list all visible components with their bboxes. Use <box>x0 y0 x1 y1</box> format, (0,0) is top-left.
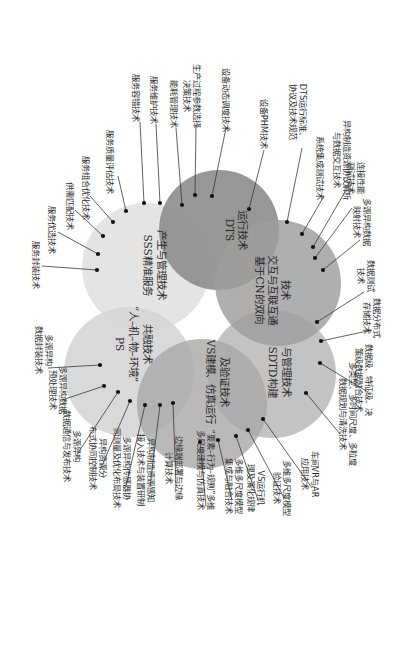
leader-dot <box>304 391 308 395</box>
leader-line <box>287 148 302 222</box>
technology-label-line: 设备动态调度技术 <box>221 68 231 132</box>
technology-label-line: 服务质量评估技术 <box>105 130 115 194</box>
technology-label: 异构制造资源感知接入技术与装置研制 <box>136 434 157 506</box>
leader-dot <box>210 194 214 198</box>
technology-label-line: 计算技术 <box>164 452 174 484</box>
leader-dot <box>111 220 115 224</box>
technology-label-line: 应用技术 <box>300 458 310 490</box>
technology-label: 供需匹配技术 <box>65 182 75 230</box>
technology-label: 数据测试技术 <box>356 260 377 293</box>
circle-title-line: PS <box>114 337 126 351</box>
technology-label-line: 车间VR与AR <box>310 451 320 498</box>
technology-label-line: 多源异构 <box>72 430 82 462</box>
leader-line <box>156 124 160 203</box>
leader-dot <box>319 339 323 343</box>
technology-label: 多维多尺度模型集成与融合技术 <box>224 458 245 514</box>
circle-title-line: 技术 <box>280 280 292 301</box>
leader-dot <box>98 363 102 367</box>
technology-label-line: 多维多尺度模型 <box>234 458 244 514</box>
technology-label: 服务组合优化技术 <box>81 156 91 220</box>
leader-line <box>118 176 126 211</box>
technology-label-line: 集成与融合技术 <box>224 458 234 514</box>
circle-title-line: 交互与互联互通 <box>267 255 279 326</box>
technology-label: 异构资源分布式协同控制技术 <box>88 426 109 490</box>
technology-label-line: 多源异构数据 <box>58 366 68 414</box>
leader-dot <box>247 207 251 211</box>
leader-dot <box>300 232 304 236</box>
technology-label-line: 理及演化规律 <box>246 464 256 512</box>
technology-label-line: 验证技术 <box>272 472 282 504</box>
leader-dot <box>142 201 146 205</box>
technology-label-line: 边缘端部署与边缘 <box>174 436 184 500</box>
technology-label: 多维多尺度模型验证技术 <box>272 460 293 516</box>
technology-label: 能耗管理技术 <box>169 80 179 128</box>
technology-label: 车间VR与AR应用技术 <box>300 451 321 498</box>
technology-label-line: 预处理技术 <box>48 370 58 410</box>
technology-label: “要素–行为–规则”多维多尺度建模与仿真技术 <box>196 430 217 511</box>
technology-label: 连接性能测试技术 <box>346 162 367 194</box>
technology-label-line: 多源异构传感器协 <box>122 436 132 501</box>
technology-label-line: 服务维护技术 <box>149 76 159 124</box>
leader-dot <box>285 220 289 224</box>
technology-label-line: 多尺度建模与仿真技术 <box>196 430 206 510</box>
leader-dot <box>116 390 120 394</box>
circle-title-line: SDTD构建 <box>267 346 279 398</box>
technology-label: VS运行机理及演化规律 <box>246 464 267 512</box>
technology-label-line: 连接性能 <box>356 162 366 194</box>
technology-label-line: 数据分布式 <box>372 298 382 339</box>
circle-title-line: 共融技术 <box>142 324 154 365</box>
leader-dot <box>321 268 325 272</box>
leader-line <box>140 122 144 203</box>
technology-label: 多类型、多时间尺度、多粒度数据规划与清洗技术 <box>338 362 359 466</box>
technology-label-line: VS运行机 <box>256 471 266 507</box>
technology-label-line: 存储技术 <box>362 302 372 334</box>
leader-dot <box>311 245 315 249</box>
technology-label-line: 同测量及优化布局技术 <box>112 428 122 508</box>
circle-title-line: “人–机–物–环境” <box>128 306 140 383</box>
leader-dot <box>158 201 162 205</box>
technology-label-line: 布式协同控制技术 <box>88 426 98 490</box>
technology-label-line: 供需匹配技术 <box>65 182 75 230</box>
technology-label-line: 接入技术与装置研制 <box>136 434 146 506</box>
technology-label-line: 生产过程参数选择 <box>192 64 202 129</box>
leader-dot <box>261 417 265 421</box>
leader-dot <box>101 234 105 238</box>
technology-label-line: 服务优选技术 <box>47 206 57 254</box>
leader-dot <box>180 203 184 207</box>
technology-label-line: 数据通信与发布技术 <box>62 410 72 482</box>
leader-dot <box>315 320 319 324</box>
technology-label-line: 决策技术 <box>182 80 192 112</box>
technology-label: 服务维护技术 <box>149 76 159 124</box>
technology-label: DTS运行标准、协议及技术规范 <box>288 84 309 141</box>
leader-dot <box>318 361 322 365</box>
circle-title-line: 运行技术 <box>237 210 249 251</box>
technology-label-line: 系统集成测试技术 <box>315 136 325 200</box>
technology-label-line: 多源异构数据 <box>362 198 372 246</box>
technology-label: 多源异构传感器协同测量及优化布局技术 <box>112 428 133 508</box>
technology-label: 多源异构数据封装技术 <box>34 326 55 374</box>
leader-dot <box>313 256 317 260</box>
technology-label-line: 测试技术 <box>346 162 356 194</box>
circle-title-line: VS建模、仿真运行 <box>205 339 217 426</box>
technology-label-line: 多源异构 <box>44 334 54 366</box>
technology-label-line: 与数据交互技术 <box>332 132 342 188</box>
technology-label: 系统集成测试技术 <box>315 136 325 200</box>
circle-title-line: 与管理技术 <box>281 347 293 398</box>
leader-dot <box>102 384 106 388</box>
circles-layer <box>64 170 341 469</box>
circle-title-line: 产生与管理技术 <box>156 230 168 301</box>
circle-title-line: 及验证技术 <box>219 357 231 408</box>
leader-line <box>90 196 113 222</box>
technology-label: 生产过程参数选择决策技术 <box>182 64 203 129</box>
technology-label: 服务容错技术 <box>131 74 141 122</box>
technology-label: 多源异构数据预处理技术 <box>48 366 69 414</box>
technology-label-line: 技术 <box>356 268 366 284</box>
technology-label-line: 多维多尺度模型 <box>282 460 292 516</box>
leader-dot <box>158 403 162 407</box>
technology-label: 设备PHM技术 <box>259 99 269 149</box>
technology-label-line: 服务封装技术 <box>31 241 41 289</box>
technology-label-line: 数据级、特征级、决 <box>364 344 374 417</box>
leader-dot <box>128 399 132 403</box>
technology-label-line: 协议及技术规范 <box>288 84 298 140</box>
technology-label: 设备动态调度技术 <box>221 68 231 132</box>
